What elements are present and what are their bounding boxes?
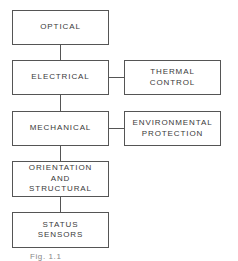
orientation-label-line1: ORIENTATION xyxy=(29,163,92,174)
connector-electrical-thermal xyxy=(109,77,124,78)
environmental-protection-block: ENVIRONMENTAL PROTECTION xyxy=(124,111,221,146)
mechanical-block: MECHANICAL xyxy=(12,111,109,146)
connector-electrical-mechanical xyxy=(60,95,61,111)
status-sensors-block: STATUS SENSORS xyxy=(12,212,109,248)
optical-label: OPTICAL xyxy=(40,22,81,33)
connector-optical-electrical xyxy=(60,45,61,60)
figure-caption: Fig. 1.1 xyxy=(30,252,61,261)
electrical-block: ELECTRICAL xyxy=(12,60,109,95)
connector-orientation-status xyxy=(60,197,61,212)
status-label-line2: SENSORS xyxy=(38,230,83,241)
connector-mechanical-environmental xyxy=(109,128,124,129)
status-label-line1: STATUS xyxy=(43,220,79,231)
connector-mechanical-orientation xyxy=(60,146,61,161)
environmental-label-line2: PROTECTION xyxy=(142,129,203,140)
optical-block: OPTICAL xyxy=(12,10,109,45)
thermal-label-line2: CONTROL xyxy=(150,78,195,89)
orientation-structural-block: ORIENTATION AND STRUCTURAL xyxy=(12,161,109,197)
thermal-control-block: THERMAL CONTROL xyxy=(124,60,221,95)
environmental-label-line1: ENVIRONMENTAL xyxy=(132,118,212,129)
orientation-label-line2: AND xyxy=(51,174,71,185)
mechanical-label: MECHANICAL xyxy=(30,123,91,134)
electrical-label: ELECTRICAL xyxy=(31,72,89,83)
thermal-label-line1: THERMAL xyxy=(150,67,195,78)
orientation-label-line3: STRUCTURAL xyxy=(29,184,92,195)
